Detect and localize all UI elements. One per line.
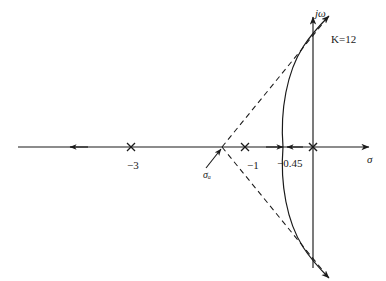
asymptote-upper bbox=[222, 22, 324, 147]
breakaway-point-label: −0.45 bbox=[277, 158, 302, 169]
pole-label-minus-one: −1 bbox=[247, 160, 259, 171]
root-locus-figure: −3 −1 −0.45 jω σ K=12 σₐ bbox=[0, 0, 386, 281]
gain-marker-label: K=12 bbox=[331, 34, 356, 45]
centroid-pointer-arrow bbox=[206, 149, 221, 168]
imaginary-axis-label: jω bbox=[315, 8, 326, 19]
centroid-pointer bbox=[206, 149, 221, 168]
asymptote-lower bbox=[222, 147, 324, 272]
pole-label-minus-three: −3 bbox=[127, 160, 139, 171]
asymptote-centroid-label: σₐ bbox=[203, 170, 211, 180]
real-axis-label: σ bbox=[367, 154, 372, 165]
root-locus-canvas bbox=[0, 0, 386, 281]
locus-branch-upper bbox=[282, 16, 329, 147]
